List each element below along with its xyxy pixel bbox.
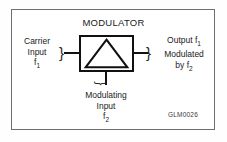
modulating-input-label-line1: Modulating (85, 90, 127, 100)
modulating-input-label: Modulating Input f2 (62, 90, 150, 125)
modulator-triangle-icon (81, 37, 132, 70)
figure-reference-code: GLM0026 (155, 111, 211, 118)
modulated-output-label-line2: Modulated (164, 49, 204, 59)
diagram-title: MODULATOR (0, 17, 227, 28)
modulated-output-label-line3: by f (175, 60, 189, 70)
carrier-input-label-line2: Input (28, 47, 47, 57)
modulated-output-brace-icon: } (146, 45, 151, 60)
modulator-symbol-box (79, 35, 134, 72)
modulated-output-label: Output f1 Modulated by f2 (153, 35, 215, 74)
modulating-input-label-line2: Input (97, 101, 116, 111)
carrier-input-label-subscript: 1 (36, 62, 40, 69)
modulator-block-diagram: MODULATOR } } } Carrier Input f1 Output … (0, 0, 227, 142)
carrier-input-lead-line (64, 52, 80, 54)
modulated-output-label-line1-subscript: 1 (197, 40, 201, 47)
carrier-input-label-line1: Carrier (24, 36, 50, 46)
carrier-input-label: Carrier Input f1 (14, 36, 60, 71)
modulating-input-label-subscript: 2 (105, 116, 109, 123)
modulated-output-label-line1: Output f (167, 35, 197, 45)
modulated-output-label-line3-subscript: 2 (189, 64, 193, 71)
modulating-input-brace-icon: } (95, 81, 108, 85)
